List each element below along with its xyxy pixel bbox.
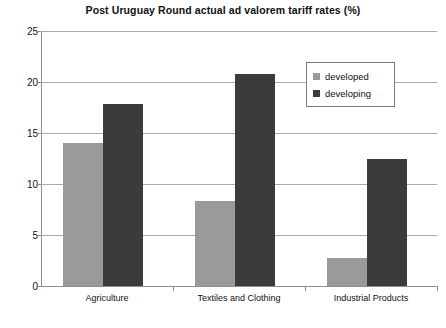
x-axis-label-industrial-products: Industrial Products xyxy=(334,293,409,303)
x-axis-tick-0 xyxy=(173,286,174,291)
bar-developing-textiles-and-clothing xyxy=(235,74,275,286)
legend-label-developed: developed xyxy=(325,71,369,82)
legend-item-developed: developed xyxy=(313,71,388,82)
gridline-0 xyxy=(41,286,437,287)
y-tick-label-5: 5 xyxy=(4,230,38,241)
legend-swatch-icon-developing xyxy=(313,90,320,97)
chart-figure: Post Uruguay Round actual ad valorem tar… xyxy=(0,0,446,328)
bar-developed-industrial-products xyxy=(327,258,367,286)
legend-swatch-icon-developed xyxy=(313,73,320,80)
legend-item-developing: developing xyxy=(313,88,388,99)
bar-developing-agriculture xyxy=(103,104,143,286)
y-axis-ticks: 0510152025 xyxy=(0,0,38,328)
bar-developed-agriculture xyxy=(63,143,103,286)
chart-title: Post Uruguay Round actual ad valorem tar… xyxy=(0,4,446,16)
bar-developed-textiles-and-clothing xyxy=(195,201,235,286)
x-axis-label-agriculture: Agriculture xyxy=(85,293,128,303)
y-tick-label-25: 25 xyxy=(4,26,38,37)
y-tick-label-10: 10 xyxy=(4,179,38,190)
legend-label-developing: developing xyxy=(325,88,371,99)
x-axis-label-textiles-and-clothing: Textiles and Clothing xyxy=(197,293,280,303)
x-axis-tick-1 xyxy=(305,286,306,291)
chart-legend: developed developing xyxy=(306,62,395,107)
y-tick-label-15: 15 xyxy=(4,128,38,139)
x-axis-tick-2 xyxy=(437,286,438,291)
y-tick-label-0: 0 xyxy=(4,281,38,292)
y-tick-label-20: 20 xyxy=(4,77,38,88)
bar-developing-industrial-products xyxy=(367,159,407,287)
gridline-25 xyxy=(41,31,437,32)
